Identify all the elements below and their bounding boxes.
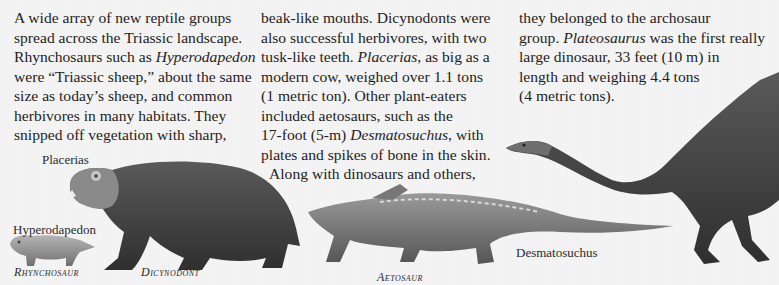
species-name: Hyperodapedon <box>156 48 256 65</box>
text-run: , as big as a <box>417 48 489 65</box>
text-line: included aetosaurs, such as the <box>261 106 491 126</box>
text-column-3: they belonged to the archosaur group. Pl… <box>519 8 765 106</box>
text-line: A wide array of new reptile groups <box>14 8 256 28</box>
text-run: herbivores in many habitats. They <box>14 107 226 124</box>
text-run: (4 metric tons). <box>519 87 615 104</box>
caption-rhynchosaur: Rhynchosaur <box>14 265 79 280</box>
species-name: Desmatosuchus <box>350 126 448 143</box>
text-column-2: beak-like mouths. Dicynodonts were also … <box>261 8 491 184</box>
text-run: plates and spikes of bone in the skin. <box>261 146 491 163</box>
species-name: Placerias <box>358 48 418 65</box>
text-run: , with <box>448 126 484 143</box>
text-run: size as today’s sheep, and common <box>14 87 232 104</box>
text-run: 17-foot (5-m) <box>261 126 350 143</box>
text-run: (1 metric ton). Other plant-eaters <box>261 87 467 104</box>
text-line: plates and spikes of bone in the skin. <box>261 145 491 165</box>
text-run: spread across the Triassic landscape. <box>14 29 242 46</box>
text-line: were “Triassic sheep,” about the same <box>14 67 256 87</box>
label-desmatosuchus: Desmatosuchus <box>516 245 598 261</box>
text-line: tusk-like teeth. Placerias, as big as a <box>261 47 491 67</box>
text-line: Along with dinosaurs and others, <box>261 164 491 184</box>
text-run: also successful herbivores, with two <box>261 29 487 46</box>
caption-dicynodont: Dicynodont <box>141 265 200 280</box>
text-run: modern cow, weighed over 1.1 tons <box>261 68 483 85</box>
text-line: large dinosaur, 33 feet (10 m) in <box>519 47 765 67</box>
text-run: A wide array of new reptile groups <box>14 9 231 26</box>
text-line: Rhynchosaurs such as Hyperodapedon <box>14 47 256 67</box>
text-run: length and weighing 4.4 tons <box>519 68 700 85</box>
text-run: tusk-like teeth. <box>261 48 358 65</box>
label-hyperodapedon: Hyperodapedon <box>13 222 96 238</box>
text-line: (1 metric ton). Other plant-eaters <box>261 86 491 106</box>
text-line: length and weighing 4.4 tons <box>519 67 765 87</box>
desmatosuchus-illustration <box>308 184 673 264</box>
text-line: 17-foot (5-m) Desmatosuchus, with <box>261 125 491 145</box>
text-line: size as today’s sheep, and common <box>14 86 256 106</box>
text-column-1: A wide array of new reptile groups sprea… <box>14 8 256 145</box>
text-run: were “Triassic sheep,” about the same <box>14 68 252 85</box>
text-line: herbivores in many habitats. They <box>14 106 256 126</box>
text-run: included aetosaurs, such as the <box>261 107 453 124</box>
species-name: Plateosaurus <box>563 29 645 46</box>
text-line: modern cow, weighed over 1.1 tons <box>261 67 491 87</box>
caption-aetosaur: Aetosaur <box>377 270 423 285</box>
label-placerias: Placerias <box>42 152 89 168</box>
text-run: they belonged to the archosaur <box>519 9 710 26</box>
hyperodapedon-illustration <box>10 235 95 266</box>
text-line: snipped off vegetation with sharp, <box>14 125 256 145</box>
text-line: also successful herbivores, with two <box>261 28 491 48</box>
text-run: beak-like mouths. Dicynodonts were <box>261 9 491 26</box>
text-run: Along with dinosaurs and others, <box>269 165 476 182</box>
text-run: snipped off vegetation with sharp, <box>14 126 226 143</box>
text-run: group. <box>519 29 563 46</box>
text-line: group. Plateosaurus was the first really <box>519 28 765 48</box>
text-run: was the first really <box>646 29 766 46</box>
text-run: Rhynchosaurs such as <box>14 48 156 65</box>
text-run: large dinosaur, 33 feet (10 m) in <box>519 48 719 65</box>
text-line: they belonged to the archosaur <box>519 8 765 28</box>
text-line: beak-like mouths. Dicynodonts were <box>261 8 491 28</box>
text-line: (4 metric tons). <box>519 86 765 106</box>
text-line: spread across the Triassic landscape. <box>14 28 256 48</box>
